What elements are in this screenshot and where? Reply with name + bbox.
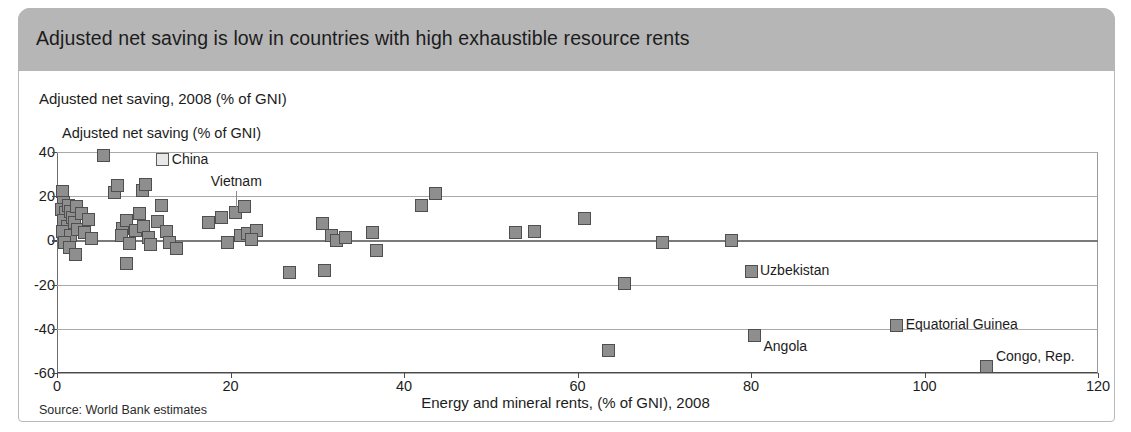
x-tick-label-120: 120	[1086, 378, 1110, 394]
x-tick-mark-120	[1098, 373, 1099, 378]
y-tick-mark--20	[52, 285, 57, 286]
data-point[interactable]	[155, 199, 168, 212]
annotation-leader-line	[236, 191, 237, 207]
y-tick-mark-0	[52, 240, 57, 241]
data-point-china[interactable]	[156, 153, 169, 166]
data-point[interactable]	[144, 238, 157, 251]
figure-subtitle: Adjusted net saving, 2008 (% of GNI)	[39, 90, 287, 107]
data-point[interactable]	[316, 217, 329, 230]
data-point[interactable]	[578, 212, 591, 225]
annotation-label: Congo, Rep.	[996, 348, 1075, 364]
gridline-y-40	[57, 152, 1098, 153]
data-point[interactable]	[370, 244, 383, 257]
data-point[interactable]	[111, 179, 124, 192]
data-point[interactable]	[97, 149, 110, 162]
y-tick-label-0: 0	[0, 232, 55, 248]
data-point-uzbekistan[interactable]	[745, 265, 758, 278]
data-point[interactable]	[528, 225, 541, 238]
x-tick-mark-40	[404, 373, 405, 378]
data-point[interactable]	[245, 233, 258, 246]
data-point[interactable]	[69, 248, 82, 261]
data-point[interactable]	[202, 216, 215, 229]
data-point[interactable]	[120, 257, 133, 270]
data-point[interactable]	[82, 213, 95, 226]
x-tick-label-60: 60	[569, 378, 585, 394]
x-tick-label-100: 100	[912, 378, 936, 394]
data-point[interactable]	[429, 187, 442, 200]
y-axis-label: Adjusted net saving (% of GNI)	[62, 125, 261, 141]
x-tick-label-40: 40	[396, 378, 412, 394]
annotation-label: Uzbekistan	[760, 262, 829, 278]
data-point-angola[interactable]	[748, 329, 761, 342]
x-tick-label-0: 0	[53, 378, 61, 394]
gridline-y-20	[57, 196, 1098, 197]
data-point[interactable]	[366, 226, 379, 239]
y-tick-label--40: -40	[0, 321, 55, 337]
y-tick-label--20: -20	[0, 277, 55, 293]
x-tick-mark-100	[925, 373, 926, 378]
data-point[interactable]	[339, 231, 352, 244]
x-tick-label-20: 20	[222, 378, 238, 394]
data-point[interactable]	[602, 344, 615, 357]
data-point[interactable]	[123, 237, 136, 250]
annotation-label: China	[172, 151, 209, 167]
data-point[interactable]	[221, 236, 234, 249]
data-point[interactable]	[139, 178, 152, 191]
annotation-label: Equatorial Guinea	[906, 316, 1018, 332]
data-point[interactable]	[656, 236, 669, 249]
data-point[interactable]	[215, 211, 228, 224]
x-tick-mark-20	[231, 373, 232, 378]
y-tick-mark--40	[52, 329, 57, 330]
x-tick-mark-80	[751, 373, 752, 378]
gridline-y--20	[57, 285, 1098, 286]
data-point[interactable]	[318, 264, 331, 277]
data-point-congo-rep[interactable]	[980, 360, 993, 373]
data-point[interactable]	[170, 242, 183, 255]
scatter-plot-area: 40200-20-40-60020406080100120ChinaVietna…	[57, 152, 1098, 373]
y-tick-label-40: 40	[0, 144, 55, 160]
figure-container: Adjusted net saving is low in countries …	[0, 0, 1131, 432]
source-note: Source: World Bank estimates	[39, 403, 207, 417]
data-point[interactable]	[133, 207, 146, 220]
data-point[interactable]	[415, 199, 428, 212]
data-point-equatorial-guinea[interactable]	[890, 319, 903, 332]
annotation-label: Angola	[763, 338, 807, 354]
figure-title: Adjusted net saving is low in countries …	[36, 27, 690, 50]
data-point[interactable]	[509, 226, 522, 239]
data-point[interactable]	[618, 277, 631, 290]
x-tick-label-80: 80	[743, 378, 759, 394]
y-tick-mark-40	[52, 152, 57, 153]
data-point[interactable]	[725, 234, 738, 247]
x-tick-mark-60	[578, 373, 579, 378]
x-tick-mark-0	[57, 373, 58, 378]
y-tick-label--60: -60	[0, 365, 55, 381]
data-point[interactable]	[283, 266, 296, 279]
annotation-label: Vietnam	[211, 173, 262, 189]
y-tick-label-20: 20	[0, 188, 55, 204]
gridline-y-0	[57, 240, 1098, 241]
data-point[interactable]	[85, 232, 98, 245]
data-point[interactable]	[238, 200, 251, 213]
